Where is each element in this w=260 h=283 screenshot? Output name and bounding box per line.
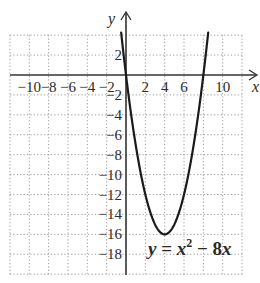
x-axis-label: x <box>251 78 259 95</box>
y-tick-label: −4 <box>106 107 122 123</box>
axes <box>10 12 257 275</box>
x-tick-label: 6 <box>180 79 188 95</box>
equation-y: y <box>146 238 157 259</box>
y-tick-label: −6 <box>106 127 122 143</box>
equation-rest: − 8 <box>192 238 222 259</box>
x-tick-label: −4 <box>79 79 95 95</box>
equation-equals: = <box>156 238 176 259</box>
y-axis-label: y <box>106 10 116 28</box>
y-tick-label: −16 <box>99 226 123 242</box>
y-tick-label: −18 <box>99 246 122 262</box>
x-tick-label: 2 <box>142 79 150 95</box>
x-tick-label: −10 <box>18 79 41 95</box>
y-tick-label: −10 <box>99 167 122 183</box>
y-tick-label: −12 <box>99 187 122 203</box>
y-tick-label: 2 <box>115 47 123 63</box>
equation-label: y = x2 − 8x <box>146 236 232 259</box>
x-tick-label: −6 <box>60 79 76 95</box>
equation-x2: x <box>221 238 232 259</box>
tick-labels: −10−8−6−4−2246102−2−4−6−8−10−12−14−16−18 <box>18 47 231 262</box>
x-tick-label: 10 <box>215 79 230 95</box>
x-tick-label: 4 <box>161 79 169 95</box>
y-tick-label: −8 <box>106 147 122 163</box>
parabola-chart: −10−8−6−4−2246102−2−4−6−8−10−12−14−16−18… <box>0 0 260 283</box>
equation-x: x <box>176 238 187 259</box>
x-tick-label: −8 <box>41 79 57 95</box>
y-tick-label: −2 <box>106 87 122 103</box>
y-tick-label: −14 <box>99 206 123 222</box>
